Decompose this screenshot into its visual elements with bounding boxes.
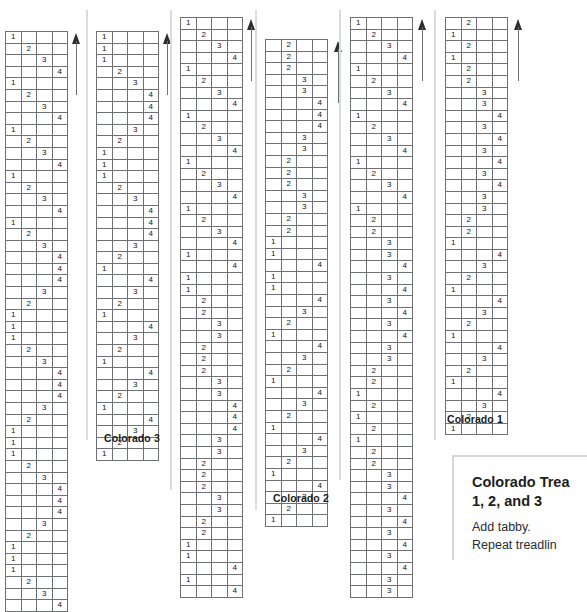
treadle-cell-empty xyxy=(97,124,113,136)
treadle-cell-empty xyxy=(128,136,144,148)
treadle-cell-empty xyxy=(21,588,37,600)
treadle-cell-empty xyxy=(6,507,22,519)
treadling-row: 3 xyxy=(181,319,243,331)
treadle-cell-empty xyxy=(37,252,53,264)
treadling-row: 2 xyxy=(351,29,413,41)
treadle-cell-empty xyxy=(492,307,508,319)
treadle-cell-empty xyxy=(312,155,328,167)
treadle-mark-2: 2 xyxy=(196,296,212,308)
treadle-mark-1: 1 xyxy=(6,553,22,565)
treadle-cell-empty xyxy=(382,191,398,203)
treadle-cell-empty xyxy=(382,412,398,424)
column-separator-rule xyxy=(434,10,436,440)
treadle-cell-empty xyxy=(97,194,113,206)
treadle-cell-empty xyxy=(281,190,297,202)
treadle-cell-empty xyxy=(297,109,313,121)
treadle-cell-empty xyxy=(112,101,128,113)
treadle-cell-empty xyxy=(266,434,282,446)
treadle-cell-empty xyxy=(492,215,508,227)
treadle-cell-empty xyxy=(281,422,297,434)
colorado-treadling-column-1: 1234123412341234123444321112344432111234… xyxy=(5,31,68,612)
treadle-mark-3: 3 xyxy=(382,481,398,493)
treadle-cell-empty xyxy=(351,504,367,516)
treadle-cell-empty xyxy=(366,87,382,99)
treadle-cell-empty xyxy=(227,122,243,134)
treadle-cell-empty xyxy=(52,124,68,136)
treadle-cell-empty xyxy=(461,99,477,111)
treadle-mark-4: 4 xyxy=(227,586,243,598)
treadle-cell-empty xyxy=(21,275,37,287)
treadle-mark-2: 2 xyxy=(196,481,212,493)
treadle-cell-empty xyxy=(351,180,367,192)
treadle-cell-empty xyxy=(382,52,398,64)
treadle-cell-empty xyxy=(446,215,462,227)
treadling-row: 3 xyxy=(97,124,159,136)
treadle-cell-empty xyxy=(143,403,159,415)
treadle-cell-empty xyxy=(351,99,367,111)
treadle-mark-2: 2 xyxy=(461,226,477,238)
treadle-cell-empty xyxy=(397,180,413,192)
treadle-cell-empty xyxy=(366,586,382,598)
treadle-cell-empty xyxy=(297,179,313,191)
treadling-row: 4 xyxy=(446,342,508,354)
treadle-cell-empty xyxy=(143,298,159,310)
treadle-cell-empty xyxy=(181,41,197,53)
treadle-cell-empty xyxy=(37,263,53,275)
treadling-grid: 1112344432111234443214321432143214321 xyxy=(96,31,159,461)
treadle-cell-empty xyxy=(181,377,197,389)
treadle-cell-empty xyxy=(52,437,68,449)
treadle-cell-empty xyxy=(312,353,328,365)
treadle-mark-4: 4 xyxy=(492,133,508,145)
treadle-cell-empty xyxy=(297,503,313,515)
treadling-row: 2 xyxy=(181,307,243,319)
treadle-cell-empty xyxy=(37,217,53,229)
treadling-row: 3 xyxy=(6,101,68,113)
treadle-cell-empty xyxy=(397,551,413,563)
treadle-cell-empty xyxy=(21,403,37,415)
treadle-cell-empty xyxy=(212,52,228,64)
treadle-cell-empty xyxy=(446,99,462,111)
treadle-cell-empty xyxy=(227,203,243,215)
treadle-mark-3: 3 xyxy=(37,55,53,67)
treadling-row: 3 xyxy=(351,342,413,354)
treadle-cell-empty xyxy=(112,379,128,391)
treadle-cell-empty xyxy=(21,287,37,299)
treadle-cell-empty xyxy=(97,287,113,299)
treadle-mark-2: 2 xyxy=(461,365,477,377)
treadling-row: 3 xyxy=(181,41,243,53)
treadling-row: 4 xyxy=(351,539,413,551)
treadle-cell-empty xyxy=(181,446,197,458)
treadle-cell-empty xyxy=(97,205,113,217)
treadle-cell-empty xyxy=(21,437,37,449)
treadling-row: 2 xyxy=(266,63,328,75)
treadle-cell-empty xyxy=(212,261,228,273)
column-separator-rule xyxy=(170,10,172,490)
treadle-cell-empty xyxy=(212,157,228,169)
treadle-cell-empty xyxy=(37,229,53,241)
treadle-cell-empty xyxy=(143,240,159,252)
treadle-cell-empty xyxy=(6,229,22,241)
treadle-mark-3: 3 xyxy=(212,133,228,145)
treadle-cell-empty xyxy=(212,342,228,354)
treadle-mark-4: 4 xyxy=(492,180,508,192)
treadle-cell-empty xyxy=(312,74,328,86)
treadling-row: 3 xyxy=(446,122,508,134)
treadle-cell-empty xyxy=(492,87,508,99)
treadling-grid: 2223344433222332211411432143214321432143… xyxy=(265,39,328,527)
treadle-cell-empty xyxy=(143,310,159,322)
treadle-cell-empty xyxy=(21,217,37,229)
treadle-cell-empty xyxy=(397,389,413,401)
treadle-cell-empty xyxy=(181,586,197,598)
treadle-cell-empty xyxy=(227,75,243,87)
treadling-row: 4 xyxy=(97,414,159,426)
treadle-cell-empty xyxy=(128,101,144,113)
treadling-row: 2 xyxy=(97,66,159,78)
treadling-row: 1 xyxy=(351,110,413,122)
treadling-row: 3 xyxy=(181,180,243,192)
treadle-cell-empty xyxy=(21,263,37,275)
treadle-cell-empty xyxy=(281,306,297,318)
treadle-cell-empty xyxy=(351,377,367,389)
treadle-cell-empty xyxy=(196,87,212,99)
treadle-cell-empty xyxy=(461,133,477,145)
treadle-cell-empty xyxy=(143,55,159,67)
